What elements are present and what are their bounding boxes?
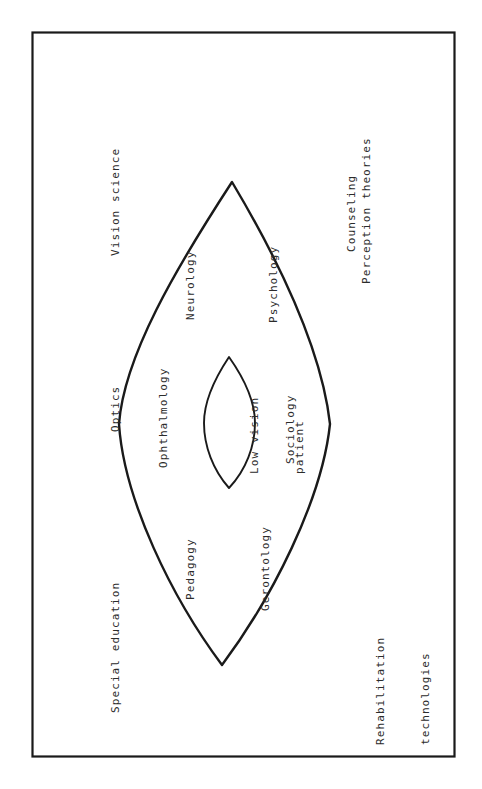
outer-label-perception-theories: Perception theories xyxy=(360,137,373,284)
ring-label-gerontology: Gerontology xyxy=(259,526,272,611)
outer-label-counseling: Counseling xyxy=(345,175,358,252)
core-label-low-vision-patient: Low vision patient xyxy=(217,397,337,474)
outer-label-vision-science: Vision science xyxy=(109,148,122,256)
figure-container: Vision science Optics Special education … xyxy=(0,0,482,789)
ring-label-pedagogy: Pedagogy xyxy=(184,538,197,600)
outer-label-rehabilitation-technologies: Rehabilitation technologies xyxy=(343,637,463,745)
ring-label-psychology: Psychology xyxy=(267,246,280,323)
outer-label-optics: Optics xyxy=(109,386,122,432)
outer-label-special-education: Special education xyxy=(109,582,122,713)
rehab-line-2: technologies xyxy=(418,637,433,745)
rehab-line-1: Rehabilitation xyxy=(373,637,388,745)
core-line-2: patient xyxy=(292,397,307,474)
ring-label-neurology: Neurology xyxy=(184,250,197,320)
core-line-1: Low vision xyxy=(247,397,262,474)
ring-label-ophthalmology: Ophthalmology xyxy=(157,368,170,468)
